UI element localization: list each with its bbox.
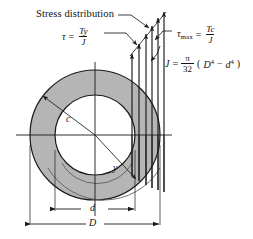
shear-stress-denominator: J (79, 36, 87, 47)
equals-sign-1: = (69, 32, 75, 42)
radius-label-c: c (66, 115, 70, 125)
radius-label-y: y (113, 164, 117, 174)
polar-moment-fraction: π 32 (181, 54, 194, 74)
equals-sign-2: = (196, 30, 202, 40)
open-paren: ( (197, 59, 200, 69)
max-shear-stress-numerator: Tc (204, 25, 216, 35)
dimension-label-d: d (90, 203, 95, 213)
shear-stress-equation: τ = Ty J (62, 27, 90, 47)
dimension-label-D: D (89, 218, 96, 228)
max-shear-stress-fraction: Tc J (204, 25, 216, 45)
d-to-fourth: d4 (226, 59, 234, 70)
shear-stress-numerator: Ty (77, 27, 89, 37)
minus-sign: − (217, 59, 223, 69)
shear-stress-fraction: Ty J (77, 27, 89, 47)
tau-symbol: τ (62, 32, 66, 42)
J-symbol: J (165, 59, 169, 69)
D-to-fourth: D4 (203, 59, 213, 70)
leader-stress-distribution (118, 15, 149, 28)
close-paren: ) (237, 59, 240, 69)
stress-distribution-label: Stress distribution (36, 9, 114, 20)
leader-lines (104, 15, 172, 61)
max-shear-stress-equation: τmax = Tc J (177, 25, 216, 45)
max-shear-stress-denominator: J (206, 34, 214, 45)
pi-numerator: π (183, 54, 192, 64)
tau-max-symbol: τmax (177, 29, 193, 41)
polar-moment-equation: J = π 32 ( D4 − d4 ) (165, 54, 240, 74)
leader-shear-stress (104, 33, 137, 45)
torsion-stress-distribution-figure: Stress distribution τ = Ty J τmax = Tc J… (0, 0, 253, 239)
thirty-two-denominator: 32 (181, 63, 194, 74)
equals-sign-3: = (172, 59, 178, 69)
